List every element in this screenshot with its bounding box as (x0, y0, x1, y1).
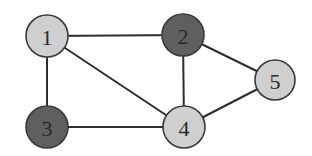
node-1-label: 1 (42, 25, 53, 50)
graph-diagram: 1 2 3 4 5 (0, 0, 312, 156)
node-1: 1 (26, 15, 68, 57)
node-2: 2 (162, 14, 204, 56)
node-4-label: 4 (179, 116, 190, 141)
node-4: 4 (163, 106, 205, 148)
node-5-label: 5 (270, 69, 281, 94)
node-5: 5 (255, 60, 295, 100)
node-2-label: 2 (178, 24, 189, 49)
edges-group (47, 35, 275, 127)
node-3: 3 (26, 106, 68, 148)
edge-1-4 (47, 36, 184, 127)
node-3-label: 3 (42, 116, 53, 141)
